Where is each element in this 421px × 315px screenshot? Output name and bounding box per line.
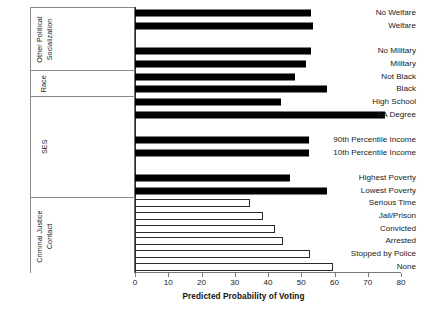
category-label: Welfare xyxy=(316,21,416,31)
x-axis-tick-label: 40 xyxy=(263,278,272,287)
category-label: High School xyxy=(316,97,416,107)
x-axis-tick xyxy=(301,273,302,277)
bar xyxy=(135,86,327,93)
group-box-ses: SES xyxy=(31,97,136,198)
category-label: Lowest Poverty xyxy=(316,186,416,196)
x-axis-tick-label: 10 xyxy=(164,278,173,287)
group-box-race: Race xyxy=(31,71,136,96)
category-label: Stopped by Police xyxy=(316,249,416,259)
group-title-ses: SES xyxy=(31,97,57,197)
group-title-text: Criminal JusticeContact xyxy=(35,210,54,262)
bar xyxy=(135,250,310,258)
category-label: Serious Time xyxy=(316,198,416,208)
category-label: BA Degree xyxy=(316,110,416,120)
bar xyxy=(135,73,295,80)
chart-container: Other PoliticalSocializationRaceSESCrimi… xyxy=(0,0,421,315)
x-axis-title-text: Predicted Probability of Voting xyxy=(182,292,304,301)
x-axis-tick xyxy=(135,273,136,277)
category-label: Arrested xyxy=(316,236,416,246)
bar xyxy=(135,187,327,194)
bar xyxy=(135,23,313,30)
x-axis-tick xyxy=(168,273,169,277)
category-label: Jail/Prison xyxy=(316,211,416,221)
x-axis-tick xyxy=(368,273,369,277)
x-axis-tick xyxy=(268,273,269,277)
x-axis-tick xyxy=(335,273,336,277)
bar xyxy=(135,199,250,207)
category-label: Black xyxy=(316,84,416,94)
x-axis-tick-label: 80 xyxy=(396,278,405,287)
group-box-criminal-justice-contact: Criminal JusticeContact xyxy=(31,198,136,274)
category-label: Military xyxy=(316,59,416,69)
category-label: 10th Percentile Income xyxy=(316,148,416,158)
bar xyxy=(135,99,281,106)
group-title-criminal-justice-contact: Criminal JusticeContact xyxy=(31,198,57,274)
bar xyxy=(135,263,333,271)
bar xyxy=(135,175,290,182)
category-label: 90th Percentile Income xyxy=(316,135,416,145)
category-label: None xyxy=(316,262,416,272)
x-axis-tick-label: 70 xyxy=(363,278,372,287)
category-label: Not Black xyxy=(316,72,416,82)
bar xyxy=(135,61,306,68)
x-axis-tick xyxy=(235,273,236,277)
bar xyxy=(135,212,263,220)
category-label: No Welfare xyxy=(316,8,416,18)
x-axis-tick-label: 20 xyxy=(197,278,206,287)
x-axis-tick xyxy=(401,273,402,277)
x-axis-tick xyxy=(202,273,203,277)
x-axis-tick-label: 30 xyxy=(230,278,239,287)
bar xyxy=(135,225,275,233)
category-label: Convicted xyxy=(316,224,416,234)
group-title-text: SES xyxy=(39,139,49,154)
category-label: No Military xyxy=(316,46,416,56)
group-title-other-political-socialization: Other PoliticalSocialization xyxy=(31,8,57,70)
group-box-other-political-socialization: Other PoliticalSocialization xyxy=(31,8,136,71)
x-axis-tick-label: 50 xyxy=(297,278,306,287)
group-title-text: Other PoliticalSocialization xyxy=(35,16,54,62)
x-axis-tick-label: 0 xyxy=(133,278,138,287)
bar xyxy=(135,137,309,144)
x-axis-title: Predicted Probability of Voting xyxy=(0,292,421,301)
bar xyxy=(135,10,311,17)
x-axis-tick-label: 60 xyxy=(330,278,339,287)
bar xyxy=(135,149,309,156)
group-title-race: Race xyxy=(31,71,57,95)
bar xyxy=(135,237,283,245)
group-title-text: Race xyxy=(39,75,49,92)
category-label-column: Other PoliticalSocializationRaceSESCrimi… xyxy=(30,7,135,273)
bar xyxy=(135,48,311,55)
category-label: Highest Poverty xyxy=(316,173,416,183)
